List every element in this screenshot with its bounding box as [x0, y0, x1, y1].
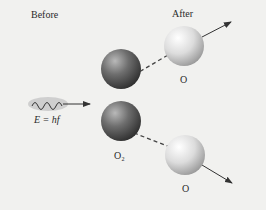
o-label-top: O	[180, 74, 187, 85]
before-label: Before	[31, 9, 58, 20]
photon-energy-label: E = hf	[34, 114, 60, 125]
o-label-bottom: O	[182, 183, 189, 194]
velocity-arrow-bottom	[202, 165, 232, 183]
after-label: After	[172, 8, 193, 19]
photodissociation-diagram	[0, 0, 266, 210]
photon-icon	[28, 97, 90, 111]
o-atom-bottom	[165, 135, 205, 175]
o-atom-top	[164, 26, 204, 66]
velocity-arrow-top	[202, 22, 231, 37]
o2-atom-top	[101, 49, 141, 89]
o2-atom-bottom	[101, 101, 141, 141]
o2-label: O₂	[114, 150, 125, 161]
broken-bond-bottom	[134, 133, 170, 147]
